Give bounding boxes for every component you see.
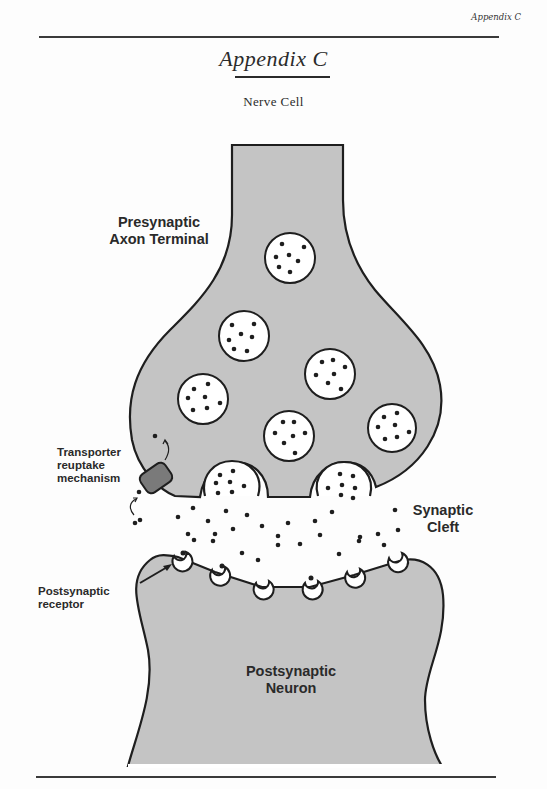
cleft-neurotransmitters [138,506,401,563]
label-line: mechanism [57,472,121,485]
bottom-rule-divider [36,776,496,778]
label-line: Postsynaptic [226,663,356,680]
label-line: Transporter [57,446,121,459]
transporter-label: Transporter reuptake mechanism [57,446,121,486]
label-line: Presynaptic [94,214,224,231]
label-line: Postsynaptic [38,585,110,598]
postsynaptic-receptor-label: Postsynaptic receptor [38,585,110,611]
synaptic-cleft-label: Synaptic Cleft [408,502,478,535]
label-line: Axon Terminal [94,231,224,248]
label-line: reuptake [57,459,121,472]
label-line: Neuron [226,680,356,697]
document-page: Appendix C Appendix C Nerve Cell [0,0,547,789]
label-line: Cleft [408,519,478,536]
presynaptic-label: Presynaptic Axon Terminal [94,214,224,247]
label-line: Synaptic [408,502,478,519]
postsynaptic-neuron-label: Postsynaptic Neuron [226,663,356,696]
label-line: receptor [38,598,110,611]
postsynaptic-neuron-shape [128,555,443,766]
